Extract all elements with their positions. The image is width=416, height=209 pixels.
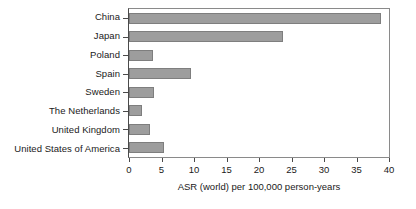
x-axis-tick	[292, 158, 293, 162]
x-axis-tick	[324, 158, 325, 162]
y-axis-label-united-kingdom: United Kingdom	[52, 125, 124, 135]
bar-china	[129, 13, 381, 24]
x-axis-tick-label: 5	[159, 164, 164, 175]
x-axis-tick-label: 40	[384, 164, 395, 175]
bar-row	[129, 46, 390, 65]
x-axis-title: ASR (world) per 100,000 person-years	[128, 181, 390, 192]
y-axis-label-united-states-of-america: United States of America	[14, 144, 124, 154]
x-axis-tick-label: 30	[319, 164, 330, 175]
bar-row	[129, 9, 390, 28]
bar-row	[129, 120, 390, 139]
bar-row	[129, 65, 390, 84]
y-axis-label-sweden: Sweden	[85, 87, 124, 97]
y-axis-tick	[123, 37, 128, 38]
x-axis-tick-label: 15	[221, 164, 232, 175]
y-axis-tick	[123, 55, 128, 56]
bar-row	[129, 83, 390, 102]
y-axis-label-the-netherlands: The Netherlands	[49, 106, 124, 116]
y-axis-tick	[123, 74, 128, 75]
x-axis-tick	[129, 158, 130, 162]
y-axis-tick	[123, 92, 128, 93]
x-axis-tick-label: 25	[286, 164, 297, 175]
x-axis-tick-label: 0	[126, 164, 131, 175]
y-axis-tick	[123, 129, 128, 130]
bar-series	[129, 9, 390, 157]
bar-sweden	[129, 87, 154, 98]
x-axis-tick-label: 20	[254, 164, 265, 175]
x-axis-tick-label: 10	[189, 164, 200, 175]
x-axis-tick	[162, 158, 163, 162]
x-axis-tick	[259, 158, 260, 162]
y-axis-label-japan: Japan	[94, 31, 124, 41]
y-axis-label-spain: Spain	[95, 69, 124, 79]
y-axis-tick	[123, 148, 128, 149]
y-axis-tick	[123, 18, 128, 19]
bar-row	[129, 102, 390, 121]
bar-united-states-of-america	[129, 142, 164, 153]
bar-spain	[129, 68, 191, 79]
bar-row	[129, 139, 390, 158]
bar-chart-figure: China Japan Poland Spain Sweden The Neth…	[0, 0, 416, 209]
y-axis-tick	[123, 111, 128, 112]
x-axis-tick	[357, 158, 358, 162]
bar-united-kingdom	[129, 124, 150, 135]
bar-the-netherlands	[129, 105, 142, 116]
bar-japan	[129, 31, 283, 42]
bar-row	[129, 28, 390, 47]
y-axis-category-labels: China Japan Poland Spain Sweden The Neth…	[0, 8, 124, 158]
bar-poland	[129, 50, 153, 61]
y-axis-label-poland: Poland	[90, 50, 124, 60]
x-axis-tick-label: 35	[351, 164, 362, 175]
x-axis-tick	[194, 158, 195, 162]
x-axis-tick	[389, 158, 390, 162]
x-axis-tick	[227, 158, 228, 162]
y-axis-label-china: China	[95, 12, 124, 22]
